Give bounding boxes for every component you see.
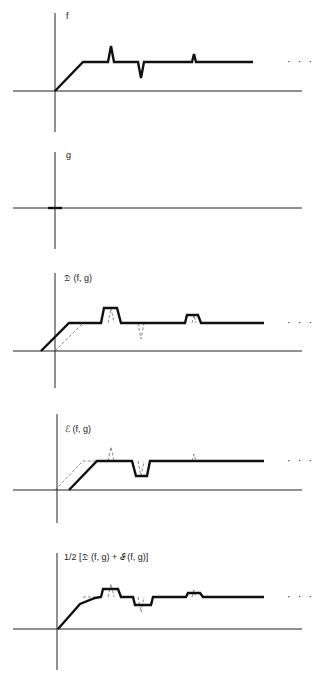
reference-curve [108, 447, 114, 461]
panel-label: g [66, 150, 71, 160]
continuation-ellipsis: · · · [287, 454, 314, 466]
function-curve [41, 308, 264, 351]
reference-curve [55, 323, 83, 351]
reference-curve [108, 308, 114, 323]
continuation-ellipsis: · · · [287, 55, 314, 67]
panel-f: f· · · [13, 11, 314, 132]
function-curve [58, 589, 264, 629]
panel-label: ℰ (f, g) [65, 424, 91, 434]
reference-curve [55, 461, 97, 490]
panel-average: 1/2 [𝔇 (f, g) + ℰ (f, g)]· · · [13, 552, 314, 670]
reference-curve [138, 323, 144, 339]
panel-label: f [66, 11, 69, 21]
panel-g: g [13, 150, 302, 249]
panel-label: 𝔇 (f, g) [64, 273, 92, 283]
continuation-ellipsis: · · · [287, 590, 314, 602]
panels: f· · ·g𝔇 (f, g)· · ·ℰ (f, g)· · ·1/2 [𝔇 … [13, 11, 314, 670]
morphology-diagram: f· · ·g𝔇 (f, g)· · ·ℰ (f, g)· · ·1/2 [𝔇 … [0, 0, 315, 675]
function-curve [69, 461, 264, 490]
panel-dilation: 𝔇 (f, g)· · · [13, 273, 314, 388]
continuation-ellipsis: · · · [287, 316, 314, 328]
function-curve [55, 46, 253, 91]
panel-erosion: ℰ (f, g)· · · [13, 414, 314, 523]
panel-label: 1/2 [𝔇 (f, g) + ℰ (f, g)] [64, 552, 148, 562]
reference-curve [108, 584, 114, 597]
reference-curve [138, 461, 144, 476]
